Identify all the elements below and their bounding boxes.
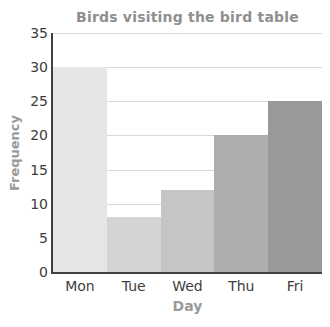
bar-thu xyxy=(214,135,268,272)
y-tick-label: 15 xyxy=(10,161,48,179)
bar-wed xyxy=(161,190,215,272)
x-tick-label: Wed xyxy=(161,278,215,294)
plot-frame xyxy=(51,33,322,274)
x-axis-label: Day xyxy=(53,298,322,314)
x-tick-label: Thu xyxy=(214,278,268,294)
x-tick-label: Mon xyxy=(53,278,107,294)
y-axis-label: Frequency xyxy=(7,106,21,200)
plot-area xyxy=(53,33,322,272)
y-tick-label: 25 xyxy=(10,92,48,110)
chart-title: Birds visiting the bird table xyxy=(53,9,322,25)
bar-tue xyxy=(107,217,161,272)
bar-fri xyxy=(268,101,322,272)
y-tick-label: 5 xyxy=(10,229,48,247)
y-tick-label: 10 xyxy=(10,195,48,213)
y-tick-label: 30 xyxy=(10,58,48,76)
y-tick-label: 0 xyxy=(10,263,48,281)
gridline xyxy=(53,33,322,34)
y-tick-label: 20 xyxy=(10,126,48,144)
x-tick-label: Fri xyxy=(268,278,322,294)
x-tick-label: Tue xyxy=(107,278,161,294)
y-tick-label: 35 xyxy=(10,24,48,42)
bar-mon xyxy=(53,67,107,272)
bar-chart-figure: Birds visiting the bird table Frequency … xyxy=(0,0,330,327)
